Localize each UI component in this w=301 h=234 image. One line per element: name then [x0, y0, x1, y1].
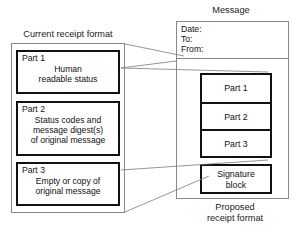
- signature-block-line-2: block: [202, 180, 270, 191]
- current-part-1-box: Part 1 Human readable status: [16, 50, 120, 94]
- proposed-parts-stack: Part 1 Part 2 Part 3: [200, 73, 272, 158]
- current-part-1-body-line-1: Human: [18, 64, 118, 74]
- current-receipt-format-caption: Current receipt format: [8, 29, 128, 40]
- current-part-2-box: Part 2 Status codes and message digest(s…: [16, 101, 120, 156]
- receipt-format-diagram: Current receipt format Part 1 Human read…: [0, 0, 301, 234]
- current-part-3-body-line-2: original message: [18, 186, 118, 196]
- current-part-2-title: Part 2: [22, 104, 45, 114]
- current-part-1-body-line-2: readable status: [18, 74, 118, 84]
- proposed-part-2-cell: Part 2: [202, 102, 270, 129]
- signature-block-line-1: Signature: [202, 169, 270, 180]
- current-part-1-body: Human readable status: [18, 64, 118, 84]
- current-part-2-body-line-2: message digest(s): [18, 125, 118, 135]
- current-part-1-title: Part 1: [22, 53, 45, 63]
- current-part-3-body-line-1: Empty or copy of: [18, 176, 118, 186]
- current-part-2-body-line-3: of original message: [18, 135, 118, 145]
- proposed-part-1-cell: Part 1: [202, 75, 270, 102]
- message-field-from: From:: [181, 44, 203, 54]
- current-part-3-title: Part 3: [22, 165, 45, 175]
- proposed-part-3-cell: Part 3: [202, 129, 270, 156]
- current-part-3-box: Part 3 Empty or copy of original message: [16, 162, 120, 206]
- current-part-2-body-line-1: Status codes and: [18, 115, 118, 125]
- message-header: Date: To: From:: [176, 21, 289, 59]
- proposed-caption-line-2: receipt format: [189, 213, 281, 224]
- current-part-2-body: Status codes and message digest(s) of or…: [18, 115, 118, 146]
- message-field-to: To:: [181, 34, 192, 44]
- connector-part1-to-message-body: [121, 61, 176, 68]
- message-field-date: Date:: [181, 24, 202, 34]
- signature-block-box: Signature block: [200, 164, 272, 194]
- proposed-receipt-format-caption: Proposed receipt format: [189, 202, 281, 224]
- current-part-3-body: Empty or copy of original message: [18, 176, 118, 196]
- message-caption: Message: [197, 5, 265, 16]
- proposed-caption-line-1: Proposed: [189, 202, 281, 213]
